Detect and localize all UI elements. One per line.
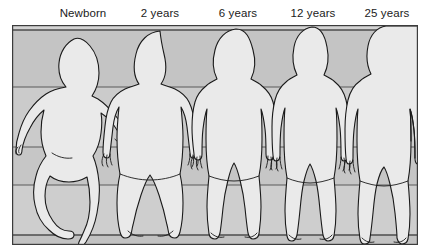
age-label-6-years: 6 years [219,6,257,20]
age-label-12-years: 12 years [291,6,336,20]
age-label-newborn: Newborn [60,6,107,20]
illustration-panel [12,25,418,245]
silhouette-canvas [12,25,418,245]
body-proportion-illustration: Newborn 2 years 6 years 12 years 25 year… [0,0,429,252]
age-label-25-years: 25 years [365,6,410,20]
age-label-row: Newborn 2 years 6 years 12 years 25 year… [0,6,429,24]
age-label-2-years: 2 years [141,6,179,20]
